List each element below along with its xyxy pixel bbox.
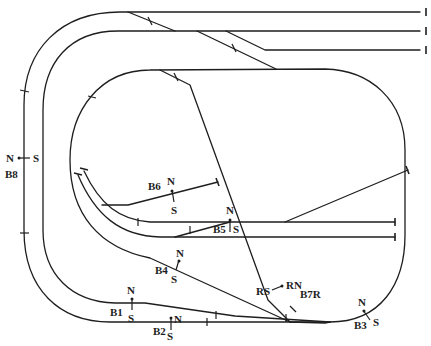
b5-s-label: S (233, 223, 239, 235)
b3-s-label: S (373, 316, 379, 328)
b8-s-label: S (33, 152, 39, 164)
b2-n-label: N (174, 313, 182, 325)
block-marker-b8-dot (18, 157, 21, 160)
b6-n-label: N (167, 175, 175, 187)
b4-n-label: N (176, 247, 184, 259)
block-marker-b3-dot (363, 310, 366, 313)
siding-top-1 (128, 12, 175, 31)
b1-block-label: B1 (110, 306, 123, 318)
b4-block-label: B4 (155, 264, 168, 276)
b6-block-label: B6 (148, 180, 161, 192)
b2-block-label: B2 (153, 325, 166, 337)
b5-n-label: N (226, 204, 234, 216)
block-marker-b1-dot (131, 298, 134, 301)
track-diagram: N S B8 N S B6 N S B5 N S B4 N S B1 N S B… (0, 0, 431, 346)
b3-block-label: B3 (354, 319, 367, 331)
b2-s-label: S (167, 330, 173, 342)
siding-top-3 (226, 31, 420, 50)
block-marker-b7r-dot (281, 285, 284, 288)
block-marker-b5-dot (229, 219, 232, 222)
b8-n-label: N (6, 152, 14, 164)
b1-s-label: S (128, 312, 134, 324)
siding-b6 (84, 171, 395, 222)
inner-loop-track (70, 69, 405, 323)
outer-loop-track (24, 12, 420, 322)
block-marker-b2-dot (170, 317, 173, 320)
joint-tick (290, 306, 296, 312)
b4-s-label: S (171, 273, 177, 285)
b7r-rs-label: RS (256, 285, 270, 297)
buffer-stop (80, 168, 88, 170)
b3-n-label: N (358, 296, 366, 308)
b5-block-label: B5 (213, 223, 226, 235)
b7r-block-label: B7R (300, 288, 322, 300)
diagonal-track-b7r (160, 70, 290, 322)
block-marker-b7r (272, 286, 282, 290)
siding-right-diag (285, 170, 408, 222)
buffer-stop (74, 173, 82, 175)
second-loop-track (43, 31, 420, 322)
block-marker-b4-dot (178, 260, 181, 263)
b6-s-label: S (171, 204, 177, 216)
block-marker-b6-dot (171, 190, 174, 193)
b1-n-label: N (127, 284, 135, 296)
b8-block-label: B8 (5, 168, 18, 180)
